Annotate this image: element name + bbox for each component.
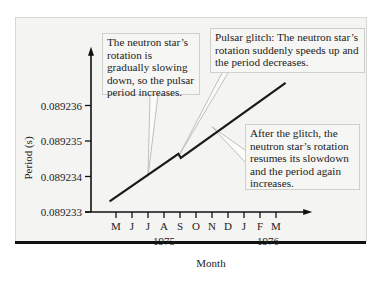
x-tick-label: D (224, 220, 232, 232)
callout-resume: After the glitch, the neutron star’s rot… (245, 124, 360, 190)
y-axis-arrowhead (88, 47, 94, 56)
callout-glitch: Pulsar glitch: The neutron star’s rotati… (210, 28, 365, 73)
y-tick-label: 0.089234 (41, 171, 83, 183)
callout-slowdown: The neutron star’s rotation is gradually… (102, 33, 200, 95)
x-tick-label: N (208, 220, 216, 232)
x-year-label: 1975 (153, 235, 176, 247)
x-tick-label: J (242, 220, 247, 232)
x-year-label: 1976 (257, 235, 280, 247)
x-tick-label: F (257, 220, 263, 232)
x-axis-arrowhead (303, 209, 312, 215)
y-tick-label: 0.089233 (41, 206, 83, 218)
y-ticks: 0.0892330.0892340.0892350.089236 (41, 100, 91, 219)
x-tick-label: O (192, 220, 200, 232)
y-tick-label: 0.089236 (41, 100, 83, 112)
y-axis-title: Period (s) (22, 136, 35, 179)
x-tick-label: M (271, 220, 281, 232)
leader-slowdown (148, 95, 158, 177)
x-tick-label: J (146, 220, 151, 232)
x-ticks: MJJASONDJFM19751976 (111, 212, 281, 247)
x-tick-label: S (177, 220, 183, 232)
x-tick-label: J (130, 220, 135, 232)
x-tick-label: A (160, 220, 168, 232)
y-tick-label: 0.089235 (41, 135, 83, 147)
x-tick-label: M (111, 220, 121, 232)
x-axis-title: Month (196, 257, 226, 269)
